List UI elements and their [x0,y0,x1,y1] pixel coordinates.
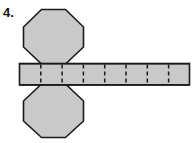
figure-container: 4. [0,0,196,143]
octagon-face-top [24,10,84,65]
octagon-face-bottom [24,84,84,138]
octagonal-prism-net-diagram [0,0,196,143]
